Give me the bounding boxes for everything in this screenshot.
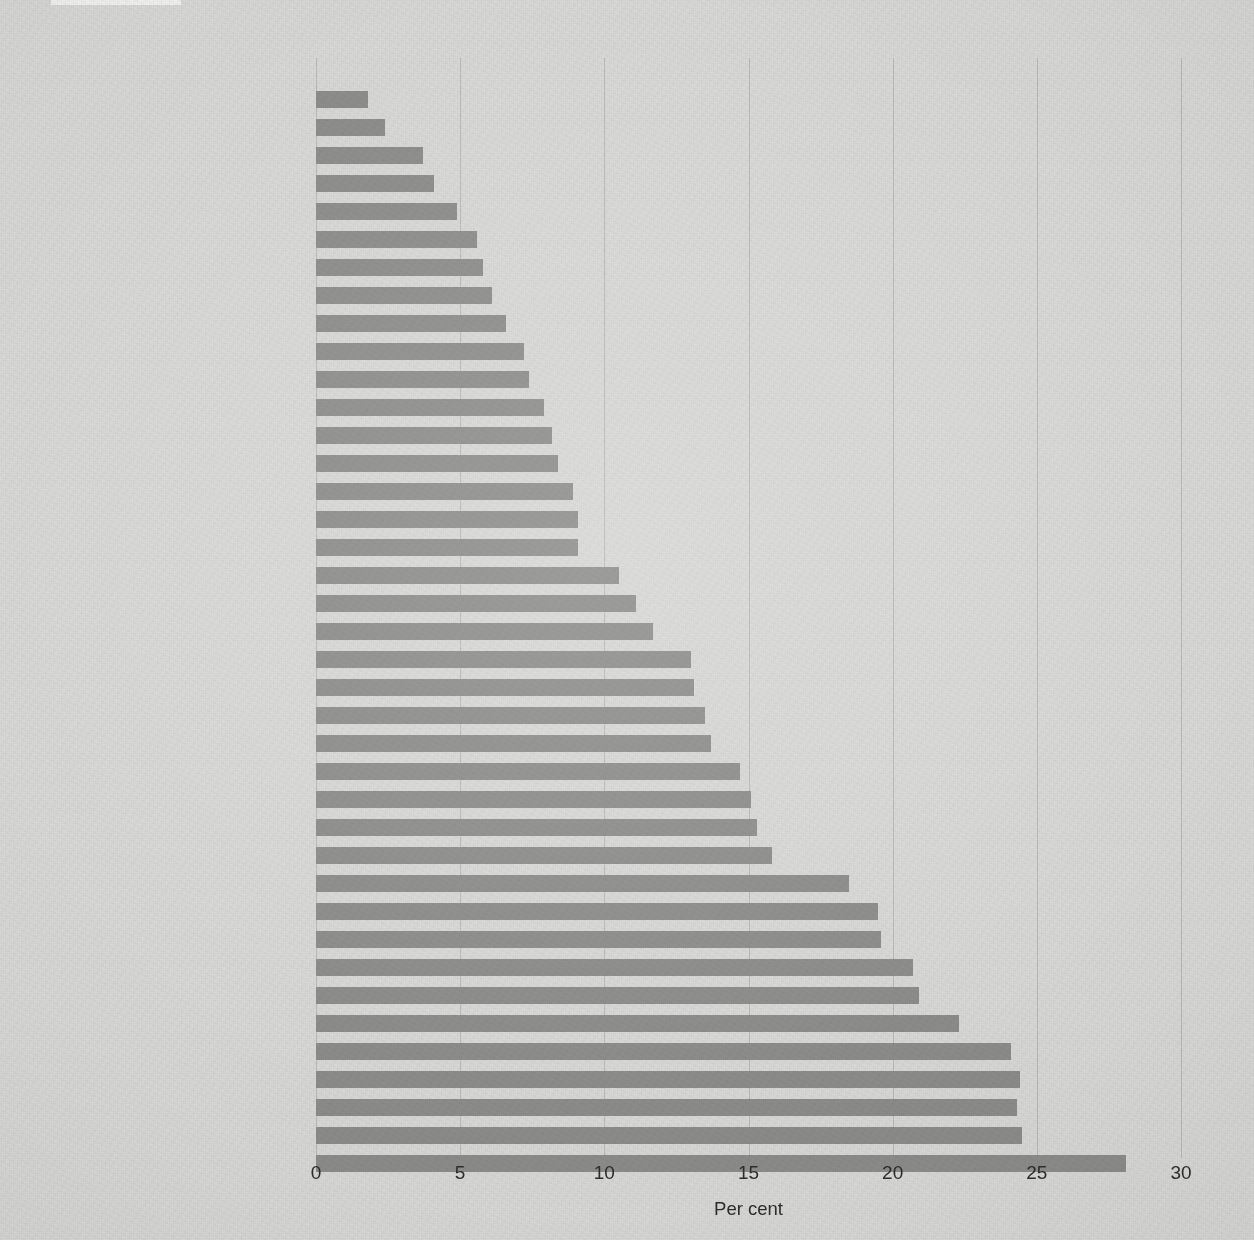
bar xyxy=(316,875,849,892)
bar-row: Zimbabwe xyxy=(316,1010,1181,1038)
bar xyxy=(316,819,757,836)
bar-row: Philippines xyxy=(316,534,1181,562)
x-tick-label: 25 xyxy=(1026,1162,1047,1184)
bar xyxy=(316,119,385,136)
bar-row: Jordan xyxy=(316,170,1181,198)
bar-row: Bangladesh xyxy=(316,562,1181,590)
bar-row: Myanmar xyxy=(316,1066,1181,1094)
bar-row: Turkmenistan xyxy=(316,702,1181,730)
bar xyxy=(316,427,552,444)
bar xyxy=(316,287,492,304)
bar-row: Democratic Republic of the Congo xyxy=(316,338,1181,366)
bar-row: Morocco xyxy=(316,870,1181,898)
bar-row: Cameroon xyxy=(316,1038,1181,1066)
x-tick-label: 5 xyxy=(455,1162,466,1184)
bar-row: Honduras xyxy=(316,814,1181,842)
bar-row: Uganda xyxy=(316,786,1181,814)
bar xyxy=(316,567,619,584)
bar-row: Nicaragua xyxy=(316,590,1181,618)
bar-row: Dominican Republic xyxy=(316,1122,1181,1150)
bar-row: Madagascar xyxy=(316,254,1181,282)
bar xyxy=(316,987,919,1004)
bar xyxy=(316,959,913,976)
bar-row: Zambia xyxy=(316,898,1181,926)
x-tick-label: 15 xyxy=(738,1162,759,1184)
bar-row: Albania xyxy=(316,310,1181,338)
bar-row: Timor-Leste xyxy=(316,58,1181,86)
bar xyxy=(316,399,544,416)
bar xyxy=(316,91,368,108)
bar xyxy=(316,1071,1020,1088)
bar xyxy=(316,1043,1011,1060)
bar-row: Armenia xyxy=(316,226,1181,254)
bar xyxy=(316,1015,959,1032)
bar-chart: Timor-LesteEgyptPeruGhanaJordanBoliviaAr… xyxy=(0,0,1254,1240)
bar xyxy=(316,931,881,948)
x-axis: Per cent 051015202530 xyxy=(316,1158,1181,1228)
bar xyxy=(316,679,694,696)
bar-row: Guyana xyxy=(316,646,1181,674)
gridline-30 xyxy=(1181,58,1182,1158)
bar-row: Namibia xyxy=(316,618,1181,646)
bar xyxy=(316,651,691,668)
bar xyxy=(316,791,751,808)
bar xyxy=(316,623,653,640)
bar-row: Ghana xyxy=(316,142,1181,170)
x-tick-label: 30 xyxy=(1170,1162,1191,1184)
bar-row: Peru xyxy=(316,114,1181,142)
bar-row: Nigeria xyxy=(316,450,1181,478)
bar-row: Haiti xyxy=(316,730,1181,758)
bar xyxy=(316,315,506,332)
bar-row: Turkey xyxy=(316,506,1181,534)
bar-row: Indonesia xyxy=(316,422,1181,450)
bar-row: Cambodia xyxy=(316,674,1181,702)
bar xyxy=(316,259,483,276)
bar-row: Bolivia xyxy=(316,198,1181,226)
bar xyxy=(316,539,578,556)
bar xyxy=(316,1127,1022,1144)
bar xyxy=(316,903,878,920)
bar xyxy=(316,203,457,220)
bar-row: India xyxy=(316,954,1181,982)
bar-row: Moldova xyxy=(316,366,1181,394)
x-tick-label: 0 xyxy=(311,1162,322,1184)
bar xyxy=(316,511,578,528)
x-tick-label: 10 xyxy=(594,1162,615,1184)
bar xyxy=(316,483,573,500)
bar xyxy=(316,147,423,164)
x-axis-title: Per cent xyxy=(316,1198,1181,1220)
bar xyxy=(316,735,711,752)
bar xyxy=(316,175,434,192)
bar-row: Eswatini xyxy=(316,842,1181,870)
bar-row: Kenya xyxy=(316,394,1181,422)
bar-row: Mozambique xyxy=(316,982,1181,1010)
bar xyxy=(316,595,636,612)
bar-row: Egypt xyxy=(316,86,1181,114)
plot-area: Timor-LesteEgyptPeruGhanaJordanBoliviaAr… xyxy=(316,58,1181,1158)
bar-row: Nepal xyxy=(316,926,1181,954)
bar xyxy=(316,455,558,472)
x-tick-label: 20 xyxy=(882,1162,903,1184)
bar xyxy=(316,1099,1017,1116)
bar-row: United Republic of Tanzania xyxy=(316,758,1181,786)
page-edge-artifact xyxy=(51,0,181,5)
bar xyxy=(316,371,529,388)
bar xyxy=(316,707,705,724)
bar xyxy=(316,231,477,248)
bar xyxy=(316,343,524,360)
bar-row: Colombia xyxy=(316,478,1181,506)
bar-row: Maldives xyxy=(316,1094,1181,1122)
bar-row: Malawi xyxy=(316,282,1181,310)
bar xyxy=(316,847,772,864)
bar xyxy=(316,763,740,780)
